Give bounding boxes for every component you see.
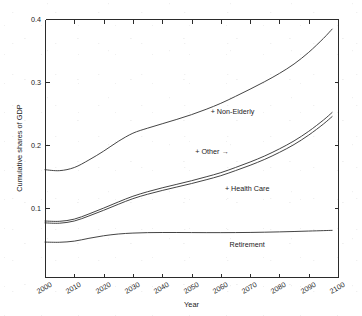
y-tick-label: 0.2 [31,141,41,150]
y-tick-label: 0.1 [31,204,41,213]
x-tick-label: 2000 [35,280,53,296]
x-tick-label: 2080 [269,280,287,296]
series-label-1: + Health Care [225,184,270,193]
x-tick-label: 2090 [299,280,317,296]
x-tick-label: 2050 [182,280,200,296]
chart-axes [46,20,339,278]
series-line-1 [45,117,332,224]
chart-series [45,29,332,242]
series-line-2 [45,112,332,221]
x-tick-label: 2070 [240,280,258,296]
x-tick-label: 2020 [94,280,112,296]
series-line-3 [45,29,332,171]
y-tick-label: 0.4 [31,15,41,24]
cumulative-shares-of-gdp-line-chart: 2000201020202030204020502060207020802090… [0,0,362,316]
series-label-3: + Non-Elderly [211,107,255,116]
series-label-2: + Other → [195,147,228,156]
x-tick-label: 2030 [123,280,141,296]
x-tick-label: 2060 [211,280,229,296]
y-axis-title: Cumulative shares of GDP [15,104,24,192]
y-tick-label: 0.3 [31,78,41,87]
x-axis-title: Year [184,300,199,309]
series-label-0: Retirement [230,240,265,249]
x-tick-label: 2040 [152,280,170,296]
axis-spine-top-right [46,20,339,278]
x-tick-label: 2010 [64,280,82,296]
x-tick-label: 2100 [328,280,346,296]
axis-spine-left-bottom [46,20,339,278]
series-line-0 [45,230,332,242]
chart-figure: 2000201020202030204020502060207020802090… [0,0,362,316]
chart-series-labels: Retirement+ Health Care+ Other →+ Non-El… [195,107,269,249]
chart-tick-labels: 2000201020202030204020502060207020802090… [31,15,346,296]
